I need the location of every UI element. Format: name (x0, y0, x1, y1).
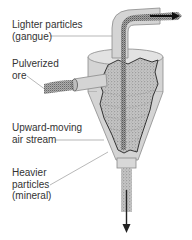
label-air-stream: Upward-moving air stream (12, 122, 82, 145)
label-pulverized-ore: Pulverized ore (12, 58, 59, 81)
label-line: (mineral) (12, 190, 51, 202)
label-heavier-particles: Heavier particles (mineral) (12, 167, 51, 202)
cyclone-diagram: Lighter particles (gangue) Pulverized or… (0, 0, 192, 240)
label-line: ore (12, 70, 59, 82)
label-line: particles (12, 179, 51, 191)
label-line: Upward-moving (12, 122, 82, 134)
label-line: Lighter particles (12, 19, 83, 31)
label-line: Heavier (12, 167, 51, 179)
label-line: Pulverized (12, 58, 59, 70)
label-line: air stream (12, 134, 82, 146)
label-lighter-particles: Lighter particles (gangue) (12, 19, 83, 42)
label-line: (gangue) (12, 31, 83, 43)
